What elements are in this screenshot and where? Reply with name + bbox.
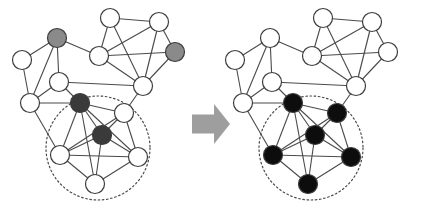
graph-node-white[interactable] (101, 9, 120, 28)
graph-node-dark-clustered[interactable] (71, 94, 90, 113)
graph-node-black-clustered[interactable] (299, 175, 318, 194)
graph-node-white[interactable] (263, 73, 282, 92)
graph-node-white-clustered[interactable] (129, 148, 148, 167)
graph-node-white[interactable] (314, 9, 333, 28)
graph-transformation-diagram (0, 0, 426, 208)
graph-node-white[interactable] (234, 94, 253, 113)
graph-node-black-clustered[interactable] (328, 104, 347, 123)
graph-node-black-clustered[interactable] (284, 94, 303, 113)
graph-node-black-clustered[interactable] (264, 146, 283, 165)
graph-node-gray[interactable] (166, 43, 185, 62)
graph-node-black-clustered[interactable] (342, 148, 361, 167)
graph-node-white[interactable] (50, 73, 69, 92)
graph-node-white[interactable] (303, 47, 322, 66)
graph-node-white[interactable] (21, 94, 40, 113)
graph-node-white[interactable] (379, 43, 398, 62)
graph-node-white[interactable] (347, 77, 366, 96)
graph-node-dark-clustered[interactable] (93, 126, 112, 145)
graph-node-white-clustered[interactable] (115, 104, 134, 123)
graph-node-white[interactable] (150, 13, 169, 32)
graph-node-white[interactable] (261, 29, 280, 48)
graph-node-black-clustered[interactable] (306, 126, 325, 145)
graph-node-white[interactable] (363, 13, 382, 32)
graph-node-white[interactable] (90, 47, 109, 66)
diagram-canvas (0, 0, 426, 208)
graph-node-white[interactable] (134, 77, 153, 96)
graph-node-white-clustered[interactable] (86, 175, 105, 194)
graph-node-white[interactable] (13, 51, 32, 70)
graph-node-white-clustered[interactable] (51, 146, 70, 165)
graph-node-gray[interactable] (48, 29, 67, 48)
graph-node-white[interactable] (226, 51, 245, 70)
